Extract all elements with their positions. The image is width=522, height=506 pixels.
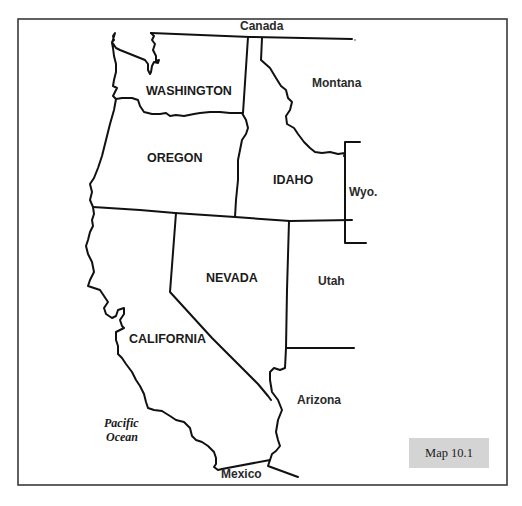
or-ca-nv-border — [93, 207, 352, 221]
label-ocean: Ocean — [106, 430, 138, 444]
label-california: CALIFORNIA — [129, 332, 206, 346]
canada-border — [151, 33, 352, 39]
label-montana: Montana — [312, 76, 362, 90]
id-mt-border — [261, 38, 345, 156]
label-pacific: Pacific — [104, 416, 139, 430]
label-arizona: Arizona — [297, 393, 341, 407]
wa-or-border — [116, 98, 242, 116]
map-frame — [18, 19, 507, 485]
ca-nv-border — [170, 213, 271, 400]
label-oregon: OREGON — [147, 151, 203, 165]
label-wyoming: Wyo. — [349, 185, 377, 199]
map-number-badge: Map 10.1 — [409, 438, 489, 468]
western-us-map: Canada WASHINGTON Montana OREGON IDAHO W… — [0, 0, 522, 506]
label-mexico: Mexico — [221, 467, 262, 481]
or-id-border — [235, 113, 248, 217]
wa-id-border — [243, 37, 248, 113]
label-idaho: IDAHO — [273, 173, 314, 187]
label-washington: WASHINGTON — [146, 84, 232, 98]
label-utah: Utah — [318, 274, 345, 288]
label-canada: Canada — [240, 19, 284, 33]
nv-ut-border — [270, 221, 289, 460]
label-nevada: NEVADA — [206, 271, 258, 285]
